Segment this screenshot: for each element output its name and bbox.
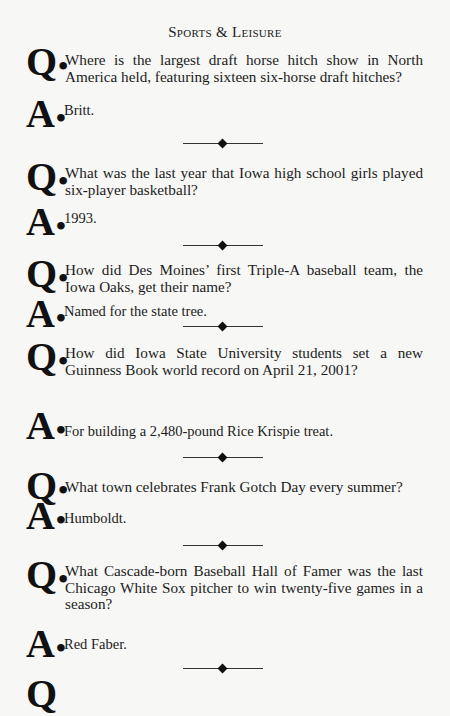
diamond-icon (218, 453, 228, 463)
question-marker: Q• (26, 157, 68, 201)
section-divider (183, 322, 263, 332)
section-divider (183, 241, 263, 251)
answer-marker: A• (26, 406, 66, 450)
answer-marker: A• (26, 202, 66, 246)
diamond-icon (218, 541, 228, 551)
answer-marker: A• (26, 496, 66, 540)
section-divider (183, 664, 263, 674)
question-marker: Q• (26, 555, 68, 599)
answer-text: Britt. (64, 102, 94, 118)
question-text: What was the last year that Iowa high sc… (65, 165, 423, 198)
diamond-icon (218, 241, 228, 251)
answer-marker: A• (26, 624, 66, 668)
answer-text: Red Faber. (64, 636, 127, 652)
section-divider (183, 453, 263, 463)
section-divider (183, 541, 263, 551)
diamond-icon (218, 664, 228, 674)
answer-text: 1993. (64, 210, 97, 226)
question-text: What Cascade-born Baseball Hall of Famer… (65, 563, 423, 613)
page-header: Sports & Leisure (0, 24, 450, 41)
question-text: How did Des Moines’ first Triple-A baseb… (65, 262, 423, 295)
question-text: How did Iowa State University students s… (65, 345, 423, 378)
question-marker: Q• (26, 337, 68, 381)
answer-marker: A• (26, 94, 66, 138)
answer-text: Named for the state tree. (64, 303, 207, 319)
section-divider (183, 139, 263, 149)
question-text: Where is the largest draft horse hitch s… (65, 52, 423, 85)
question-marker: Q• (26, 42, 68, 86)
answer-text: For building a 2,480-pound Rice Krispie … (64, 423, 333, 439)
diamond-icon (218, 139, 228, 149)
diamond-icon (218, 322, 228, 332)
question-text: What town celebrates Frank Gotch Day eve… (65, 479, 423, 496)
answer-marker: A• (26, 294, 66, 338)
question-marker-partial: Q (26, 674, 57, 714)
answer-text: Humboldt. (64, 510, 126, 526)
